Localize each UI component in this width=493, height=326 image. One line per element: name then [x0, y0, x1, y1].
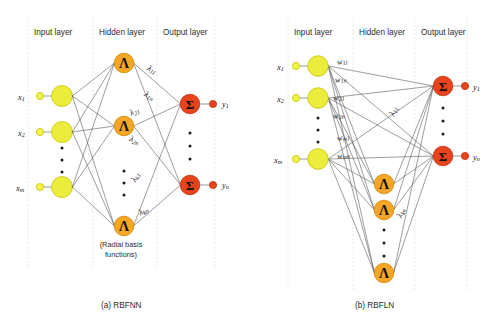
- panel-a-input-ellipsis-0: [61, 147, 64, 150]
- panel-a-output-terminal-0: [209, 100, 216, 107]
- panel-b-input-label-x1: x1: [277, 62, 284, 72]
- panel-b-input-terminal-2: [292, 155, 299, 162]
- panel-a-output-label-y1: y1: [222, 99, 229, 109]
- panel-b-input-label-xm: xm: [274, 155, 282, 165]
- panel-a-input-node-2: [52, 177, 73, 198]
- panel-b-weight-w-11: w11: [336, 56, 348, 67]
- panel-a-input-label-xm: xm: [16, 183, 24, 193]
- panel-a-edge-in1-hid1: [72, 126, 114, 132]
- panel-b-output-terminal-0: [461, 82, 468, 89]
- panel-a-input-node-0: [52, 86, 73, 107]
- panel-a-output-layer-label: Output layer: [163, 28, 208, 37]
- panel-a-edge-in0-hid0: [72, 63, 114, 96]
- panel-a-input-label-x1: x1: [18, 92, 25, 102]
- panel-b-input-layer-label: Input layer: [294, 28, 332, 37]
- panel-b-output-label-y1: y1: [473, 82, 480, 92]
- panel-b-input-ellipsis-0: [317, 117, 320, 120]
- panel-a-hidden-ellipsis-2: [123, 194, 126, 197]
- panel-a-input-ellipsis-2: [61, 171, 64, 174]
- panel-a-edge-in1-hid2: [72, 132, 114, 226]
- panel-a-output-terminal-1: [209, 181, 216, 188]
- panel-a-caption: (a) RBFNN: [101, 301, 141, 310]
- panel-b-hidden-glyph-1: Λ: [379, 203, 389, 218]
- panel-b-input-label-x2: x2: [277, 94, 284, 104]
- panel-b-caption: (b) RBFLN: [355, 301, 394, 310]
- panel-b-edge-in0-hid1: [328, 66, 374, 210]
- panel-a-input-ellipsis-1: [61, 159, 64, 162]
- panel-b-edge-in2-hid2: [328, 159, 374, 273]
- panel-a-hidden-ellipsis-0: [123, 170, 126, 173]
- panel-b-input-ellipsis-2: [317, 141, 320, 144]
- panel-b-output-ellipsis-0: [442, 107, 445, 110]
- panel-a-input-terminal-1: [36, 128, 43, 135]
- panel-b-output-layer-label: Output layer: [421, 28, 466, 37]
- network-wiring: ΛΛΛΣΣΛΛΛΣΣ: [0, 0, 493, 326]
- panel-b-input-terminal-1: [292, 94, 299, 101]
- panel-a-edge-in2-hid1: [72, 126, 114, 187]
- panel-a-output-ellipsis-2: [189, 158, 192, 161]
- panel-a-output-glyph-1: Σ: [186, 178, 195, 193]
- figure-canvas: ΛΛΛΣΣΛΛΛΣΣ Input layer Hidden layer Outp…: [0, 0, 493, 326]
- panel-a-radial-basis-note-line1: (Radial basis: [100, 240, 143, 249]
- panel-b-weight-w-21: w21: [332, 92, 345, 103]
- panel-a-output-glyph-0: Σ: [186, 97, 195, 112]
- panel-b-output-ellipsis-1: [442, 120, 445, 123]
- panel-b-hidden-ellipsis-0: [383, 229, 386, 232]
- panel-a-hidden-ellipsis-1: [123, 182, 126, 185]
- panel-a-output-ellipsis-1: [189, 145, 192, 148]
- panel-b-output-ellipsis-2: [442, 133, 445, 136]
- panel-a-input-terminal-0: [36, 92, 43, 99]
- panel-b-input-node-0: [308, 56, 329, 77]
- panel-b-hidden-glyph-0: Λ: [379, 177, 389, 192]
- panel-a-input-layer-label: Input layer: [34, 28, 72, 37]
- panel-b-output-terminal-1: [461, 152, 468, 159]
- panel-b-edge-hid1-out0: [394, 86, 434, 210]
- panel-a-edge-in2-hid0: [72, 63, 114, 187]
- panel-a-radial-basis-note: (Radial basis functions): [80, 240, 162, 260]
- panel-b-weight-w-1n: w1n: [334, 74, 347, 85]
- panel-b-output-glyph-0: Σ: [439, 79, 448, 94]
- panel-a-input-label-x2: x2: [18, 128, 25, 138]
- panel-b-hidden-ellipsis-2: [383, 255, 386, 258]
- panel-a-output-label-yn: yn: [222, 180, 229, 190]
- panel-a-hidden-glyph-2: Λ: [119, 219, 129, 234]
- panel-b-input-ellipsis-1: [317, 129, 320, 132]
- panel-a-radial-basis-note-line2: functions): [105, 250, 137, 259]
- panel-b-edge-hid1-out1: [394, 156, 434, 210]
- panel-b-weight-w-2n: w2n: [332, 110, 345, 121]
- panel-a-hidden-glyph-0: Λ: [119, 56, 129, 71]
- panel-a-input-terminal-2: [36, 183, 43, 190]
- panel-a-input-node-1: [52, 122, 73, 143]
- panel-b-hidden-ellipsis-1: [383, 242, 386, 245]
- panel-b-input-terminal-0: [292, 62, 299, 69]
- panel-b-hidden-layer-label: Hidden layer: [359, 28, 405, 37]
- panel-a-hidden-layer-label: Hidden layer: [99, 28, 145, 37]
- panel-b-hidden-glyph-2: Λ: [379, 266, 389, 281]
- panel-a-output-ellipsis-0: [189, 132, 192, 135]
- panel-b-input-node-2: [308, 149, 329, 170]
- panel-b-output-label-yn: yn: [473, 152, 480, 162]
- panel-b-input-node-1: [308, 88, 329, 109]
- panel-a-hidden-glyph-1: Λ: [119, 119, 129, 134]
- panel-b-output-glyph-1: Σ: [439, 149, 448, 164]
- panel-b-edge-hid0-out0: [394, 86, 434, 184]
